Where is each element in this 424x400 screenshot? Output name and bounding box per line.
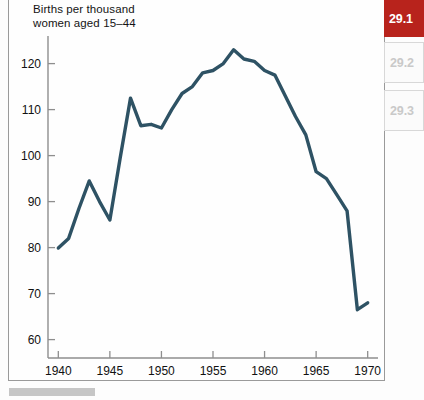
x-tick-label: 1965 — [303, 364, 330, 378]
x-tick-label: 1960 — [251, 364, 278, 378]
y-tick-label: 70 — [28, 287, 42, 301]
y-tick-label: 60 — [28, 333, 42, 347]
x-tick-label: 1945 — [97, 364, 124, 378]
y-tick-label: 110 — [22, 103, 41, 117]
section-tab-rail: 29.1 29.2 29.3 — [384, 0, 424, 400]
y-tick-label: 100 — [21, 149, 41, 163]
section-tab-29-1[interactable]: 29.1 — [384, 0, 424, 37]
x-tick-group: 1940194519501955196019651970 — [45, 351, 381, 378]
x-tick-label: 1955 — [200, 364, 227, 378]
y-tick-label: 80 — [28, 241, 42, 255]
figure-panel: Births per thousand women aged 15–44 607… — [8, 0, 385, 381]
section-tab-29-3[interactable]: 29.3 — [384, 90, 424, 131]
section-tab-29-2[interactable]: 29.2 — [384, 42, 424, 83]
line-chart-plot: 60708090100110120 1940194519501955196019… — [9, 0, 386, 381]
x-tick-label: 1940 — [45, 364, 72, 378]
y-tick-label: 120 — [21, 57, 41, 71]
caption-swatch-bar — [9, 388, 95, 396]
x-tick-label: 1950 — [148, 364, 175, 378]
y-tick-label: 90 — [28, 195, 42, 209]
x-tick-label: 1970 — [354, 364, 381, 378]
section-tab-label: 29.3 — [390, 104, 414, 118]
data-series-group — [58, 50, 367, 310]
y-tick-group: 60708090100110120 — [21, 57, 55, 347]
section-tab-label: 29.1 — [389, 12, 413, 26]
section-tab-label: 29.2 — [390, 56, 414, 70]
data-series-line — [58, 50, 367, 310]
